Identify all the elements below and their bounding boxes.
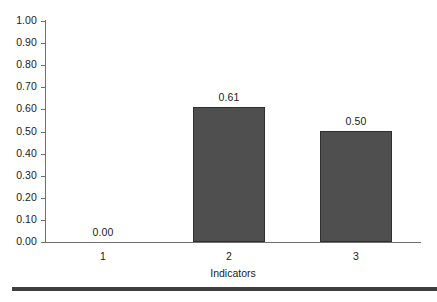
y-axis-tick-mark xyxy=(41,43,46,44)
y-axis-tick-label: 0.00 xyxy=(16,235,37,247)
y-axis-tick-label: 0.90 xyxy=(16,36,37,48)
x-axis-spine xyxy=(45,242,421,243)
y-axis-tick-mark xyxy=(41,220,46,221)
y-axis-tick-label: 0.10 xyxy=(16,213,37,225)
bar-value-1: 0.00 xyxy=(67,226,139,238)
y-axis-tick-label: 0.70 xyxy=(16,80,37,92)
x-axis-category-label-2: 2 xyxy=(193,250,265,262)
y-axis-tick-label: 0.30 xyxy=(16,169,37,181)
y-axis-tick-label: 0.50 xyxy=(16,125,37,137)
bar-3[interactable] xyxy=(320,131,392,242)
y-axis-tick-label: 0.20 xyxy=(16,191,37,203)
y-axis-tick-label: 1.00 xyxy=(16,14,37,26)
y-axis-tick-mark xyxy=(41,65,46,66)
y-axis-tick-label: 0.60 xyxy=(16,102,37,114)
y-axis-tick-mark xyxy=(41,198,46,199)
y-axis-tick-mark xyxy=(41,154,46,155)
x-axis-category-label-3: 3 xyxy=(320,250,392,262)
y-axis-tick-label: 0.80 xyxy=(16,58,37,70)
bar-chart-figure: 1.00 0.90 0.80 0.70 0.60 0.50 0.40 0.30 … xyxy=(0,0,437,302)
y-axis-tick-label: 0.40 xyxy=(16,147,37,159)
x-axis-title: Indicators xyxy=(46,267,420,279)
y-axis-tick-mark xyxy=(41,176,46,177)
y-axis-tick-mark xyxy=(41,109,46,110)
bottom-divider-rule xyxy=(12,287,437,291)
bar-value-3: 0.50 xyxy=(320,115,392,127)
y-axis-tick-mark xyxy=(41,87,46,88)
y-axis-tick-mark xyxy=(41,21,46,22)
y-axis-tick-mark xyxy=(41,132,46,133)
x-axis-category-label-1: 1 xyxy=(67,250,139,262)
bar-2[interactable] xyxy=(193,107,265,242)
bar-value-2: 0.61 xyxy=(193,91,265,103)
